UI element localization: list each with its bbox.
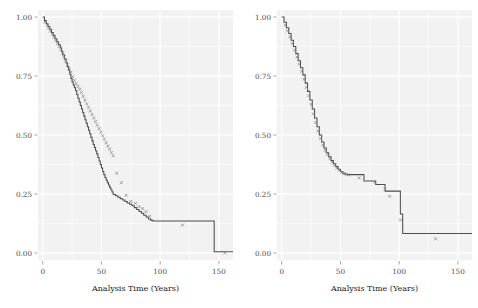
y-tick-label: 0.00 xyxy=(16,249,32,258)
x-tick-label: 50 xyxy=(336,267,346,276)
x-axis-title: Analysis Time (Years) xyxy=(330,284,418,293)
panel-left: 0.000.250.500.751.00050100150Analysis Ti… xyxy=(0,0,239,308)
x-tick-label: 100 xyxy=(392,267,406,276)
x-tick-label: 0 xyxy=(279,267,284,276)
figure-container: 0.000.250.500.751.00050100150Analysis Ti… xyxy=(0,0,478,308)
x-tick-label: 150 xyxy=(451,267,465,276)
y-tick-label: 0.50 xyxy=(16,131,32,140)
y-tick-label: 0.25 xyxy=(16,190,32,199)
x-axis-title: Analysis Time (Years) xyxy=(91,284,179,293)
y-tick-label: 0.25 xyxy=(255,190,271,199)
x-tick-label: 150 xyxy=(212,267,226,276)
x-tick-label: 50 xyxy=(97,267,107,276)
y-tick-label: 0.75 xyxy=(16,72,32,81)
panel-right: 0.000.250.500.751.00050100150Analysis Ti… xyxy=(239,0,478,308)
y-tick-label: 1.00 xyxy=(16,13,32,22)
y-tick-label: 0.50 xyxy=(255,131,271,140)
y-tick-label: 1.00 xyxy=(255,13,271,22)
x-tick-label: 100 xyxy=(153,267,167,276)
survival-plot-right: 0.000.250.500.751.00050100150Analysis Ti… xyxy=(239,0,478,308)
survival-plot-left: 0.000.250.500.751.00050100150Analysis Ti… xyxy=(0,0,239,308)
x-tick-label: 0 xyxy=(40,267,45,276)
y-tick-label: 0.00 xyxy=(255,249,271,258)
y-tick-label: 0.75 xyxy=(255,72,271,81)
